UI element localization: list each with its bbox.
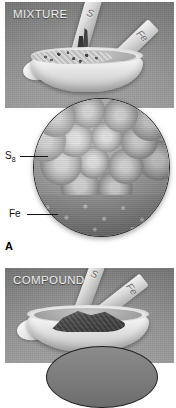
mixture-powder (31, 50, 113, 64)
magnified-inset-circle (33, 98, 170, 237)
leader-line-fe (27, 214, 58, 215)
callout-label-s8: S8 (5, 150, 16, 163)
panel-label-compound: COMPOUND (13, 274, 85, 286)
callout-s8-subscript: 8 (12, 156, 16, 163)
magnified-inset-circle-bottom (46, 346, 158, 408)
inset-shading (34, 99, 169, 236)
callout-s8-text: S (5, 150, 12, 161)
callout-label-fe: Fe (9, 208, 21, 219)
leader-line-s8 (20, 156, 48, 157)
panel-label-mixture: MIXTURE (13, 8, 68, 20)
panel-letter-label: A (5, 240, 13, 252)
panel-mixture: S Fe MIXTURE (5, 2, 174, 108)
spatula-sulfur-mark: S (81, 6, 99, 21)
callout-fe-text: Fe (9, 208, 21, 219)
